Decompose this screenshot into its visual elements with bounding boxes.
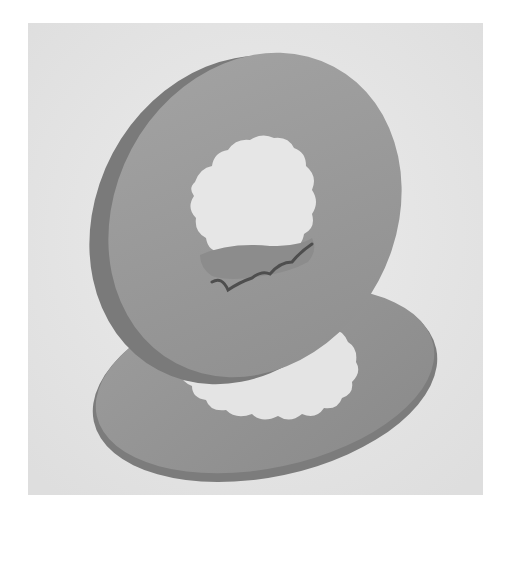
washers-photo [0,0,508,561]
